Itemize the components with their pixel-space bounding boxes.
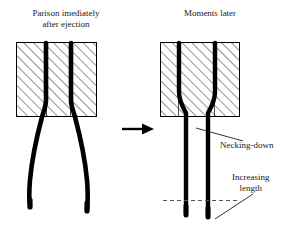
annotation-necking-down: Necking-down <box>220 140 274 151</box>
blow-molding-diagram <box>0 0 296 236</box>
right-arrow-icon <box>122 124 154 135</box>
die-block-right <box>161 43 240 117</box>
leader-line-increasing-length <box>215 194 253 219</box>
die-block-left <box>17 43 97 117</box>
figure-canvas: Parison imediately after ejection Moment… <box>0 0 296 236</box>
panel-parison-after-ejection <box>17 43 97 212</box>
annotation-increasing-length: Increasing length <box>232 172 269 194</box>
panel-parison-moments-later <box>161 43 240 218</box>
